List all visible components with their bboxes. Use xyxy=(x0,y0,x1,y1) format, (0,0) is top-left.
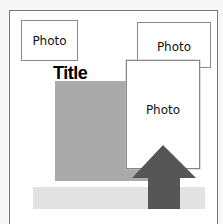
up-arrow-shape xyxy=(132,145,196,209)
up-arrow-icon xyxy=(0,0,223,224)
